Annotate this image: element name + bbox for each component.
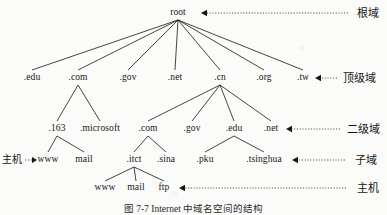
arrow-host-pointer — [32, 157, 37, 163]
figure-caption: 图 7-7 Internet 中域名空间的结构 — [124, 205, 263, 215]
edge-root_to_tld — [178, 20, 303, 70]
paper-grain-texture — [0, 0, 387, 215]
edge-itct_to_host — [134, 167, 136, 181]
second-level-node-gov: .gov — [183, 124, 200, 134]
arrow-sub-domain — [292, 157, 298, 163]
sub-domain-node-itct: .itct — [126, 155, 141, 165]
edge-com_to_second — [78, 85, 100, 121]
tld-node-tw: .tw — [297, 73, 309, 83]
edge-com_to_second — [57, 85, 78, 121]
arrow-top-level — [315, 75, 321, 81]
edge-cn_to_second — [220, 85, 234, 121]
sub-domain-node-sina: .sina — [157, 155, 175, 165]
edge-itct_to_host — [105, 167, 134, 181]
level-label-host-level: 主机 — [357, 183, 379, 194]
tld-node-org: .org — [256, 73, 271, 83]
level-label-top-level: 顶级域 — [343, 73, 376, 84]
level-label-second-level: 二级域 — [347, 124, 380, 135]
tree-edges — [0, 0, 387, 215]
edge-root_to_tld — [32, 20, 178, 70]
edge-root_to_tld — [178, 20, 264, 70]
edge-itct_to_host — [134, 167, 164, 181]
second-level-node-com: .com — [138, 124, 157, 134]
edge-cn_to_second — [220, 85, 271, 121]
second-level-node-163: .163 — [48, 124, 65, 134]
tld-node-gov: .gov — [119, 73, 136, 83]
edge-sedu_to_sub — [205, 136, 234, 152]
arrow-host-level — [179, 185, 185, 191]
dns-domain-hierarchy-figure: root .edu.com.gov.net.cn.org.tw.163.micr… — [0, 0, 387, 215]
tld-node-com: .com — [68, 73, 87, 83]
edge-root_to_tld — [128, 20, 178, 70]
edge-s163_to_sub — [57, 136, 84, 152]
host-node-www: www — [95, 183, 116, 193]
edge-s163_to_sub — [48, 136, 57, 152]
tld-node-cn: .cn — [214, 73, 226, 83]
edge-root_to_tld — [178, 20, 220, 70]
side-label-host-pointer: 主机 — [2, 155, 22, 165]
arrow-root-domain — [201, 10, 207, 16]
second-level-node-microsoft: .microsoft — [80, 124, 120, 134]
sub-domain-node-pku: .pku — [196, 155, 213, 165]
host-node-mail: mail — [127, 183, 144, 193]
level-label-sub-domain: 子域 — [355, 155, 377, 166]
sub-domain-node-tsinghua: .tsinghua — [246, 155, 281, 165]
second-level-node-edu: .edu — [226, 124, 243, 134]
node-root: root — [170, 8, 186, 18]
edge-root_to_tld — [78, 20, 178, 70]
edge-scom_to_sub — [134, 136, 148, 152]
sub-domain-node-www: www — [38, 155, 59, 165]
edge-root_to_tld — [175, 20, 178, 70]
tld-node-net: .net — [168, 73, 182, 83]
edge-cn_to_second — [192, 85, 220, 121]
edge-scom_to_sub — [148, 136, 166, 152]
sub-domain-node-mail: mail — [75, 155, 92, 165]
level-label-root-domain: 根域 — [357, 8, 379, 19]
tld-node-edu: .edu — [24, 73, 41, 83]
second-level-node-net: .net — [264, 124, 278, 134]
arrow-second-level — [286, 126, 292, 132]
edge-cn_to_second — [148, 85, 220, 121]
edge-sedu_to_sub — [234, 136, 264, 152]
host-node-ftp: ftp — [159, 183, 170, 193]
